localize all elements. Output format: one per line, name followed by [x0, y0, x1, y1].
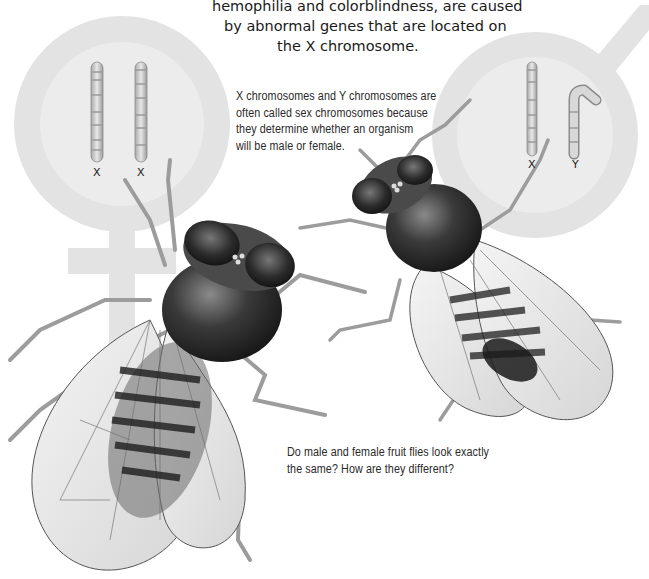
note-line: will be male or female.: [236, 138, 436, 155]
note-line: they determine whether an organism: [236, 121, 436, 138]
male-chromosome-label-x: X: [528, 158, 536, 171]
note-line: often called sex chromosomes because: [236, 105, 436, 122]
female-chromosome-x1: [91, 62, 103, 162]
top-caption-line: by abnormal genes that are located on: [212, 16, 632, 36]
sex-chromosome-note: X chromosomes and Y chromosomes are ofte…: [236, 88, 436, 154]
top-caption-line: the X chromosome.: [212, 36, 632, 56]
female-chromosome-label-2: X: [137, 166, 145, 179]
illustration-canvas: [0, 0, 649, 579]
female-fruit-fly: [10, 160, 365, 570]
female-chromosome-x2: [135, 62, 147, 162]
question-prompt: Do male and female fruit flies look exac…: [287, 444, 489, 477]
male-chromosome-label-y: Y: [572, 158, 579, 171]
top-caption-line: hemophilia and colorblindness, are cause…: [212, 0, 632, 16]
question-line: the same? How are they different?: [287, 461, 489, 478]
male-chromosome-x: [527, 62, 537, 156]
note-line: X chromosomes and Y chromosomes are: [236, 88, 436, 105]
question-line: Do male and female fruit flies look exac…: [287, 444, 489, 461]
top-caption: hemophilia and colorblindness, are cause…: [212, 0, 632, 56]
female-chromosome-label-1: X: [93, 166, 101, 179]
